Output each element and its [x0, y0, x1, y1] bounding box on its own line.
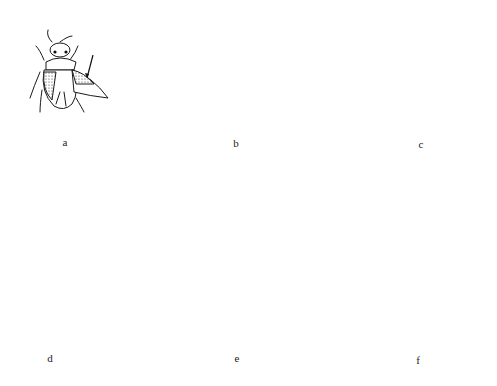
panel-label-f: f: [408, 354, 428, 366]
panel-label-c: c: [411, 138, 431, 150]
insect-figure: [0, 0, 497, 386]
insect-a-drawing: [30, 30, 108, 112]
panel-label-a: a: [55, 136, 75, 148]
panel-label-b: b: [226, 137, 246, 149]
panel-label-e: e: [227, 352, 247, 364]
panel-label-d: d: [40, 352, 60, 364]
